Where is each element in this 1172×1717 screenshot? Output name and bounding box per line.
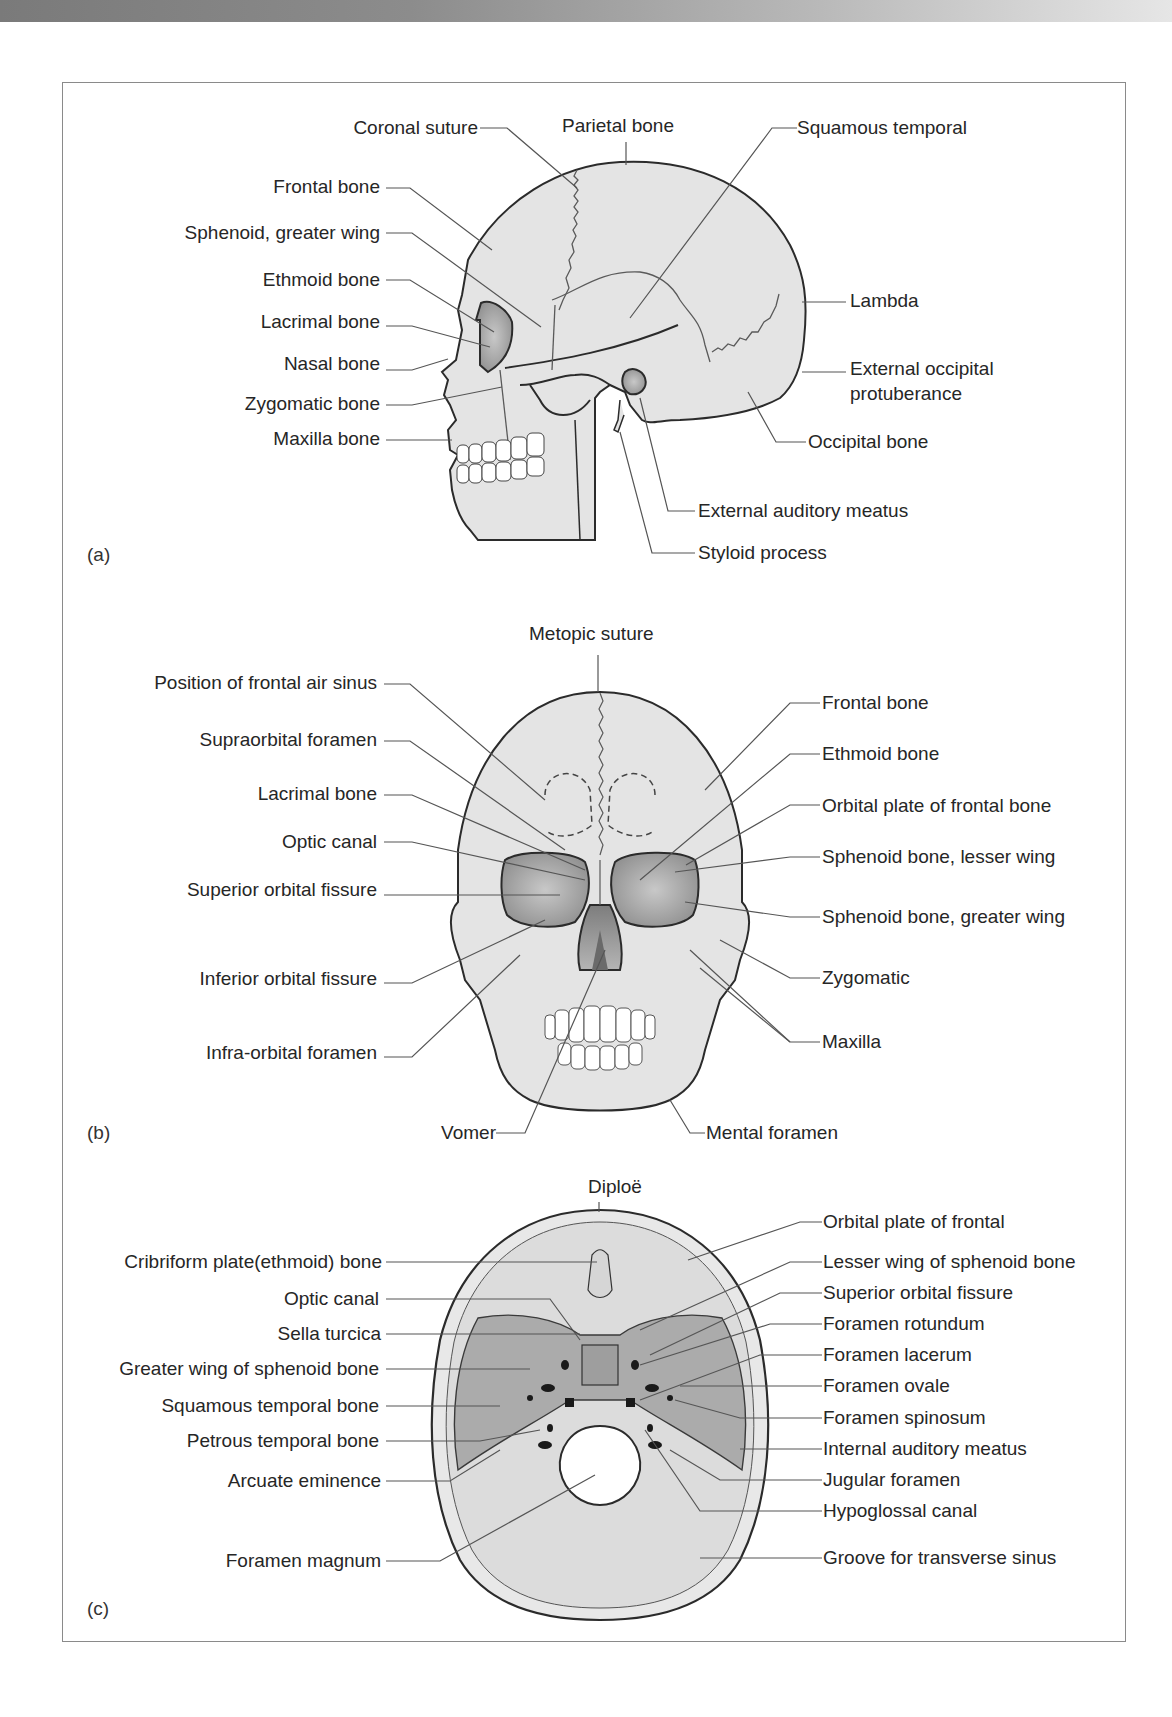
label-squamous-temporal-bone: Squamous temporal bone [161, 1395, 379, 1417]
label-sphenoid-lesser-wing: Sphenoid bone, lesser wing [822, 846, 1055, 868]
label-maxilla-b: Maxilla [822, 1031, 881, 1053]
label-optic-canal-c: Optic canal [284, 1288, 379, 1310]
label-sphenoid-greater-wing-b: Sphenoid bone, greater wing [822, 906, 1065, 928]
label-foramen-lacerum: Foramen lacerum [823, 1344, 972, 1366]
label-hypoglossal-canal: Hypoglossal canal [823, 1500, 977, 1522]
label-frontal-air-sinus: Position of frontal air sinus [154, 672, 377, 694]
label-diploe: Diploë [588, 1176, 642, 1198]
label-external-occipital: External occipital [850, 358, 994, 380]
label-orbital-plate-frontal: Orbital plate of frontal [823, 1211, 1005, 1233]
label-nasal-bone: Nasal bone [284, 353, 380, 375]
panel-label-c: (c) [87, 1598, 109, 1620]
label-squamous-temporal: Squamous temporal [797, 117, 967, 139]
label-foramen-rotundum: Foramen rotundum [823, 1313, 985, 1335]
label-supraorbital-foramen: Supraorbital foramen [200, 729, 377, 751]
label-protuberance: protuberance [850, 383, 962, 405]
label-coronal-suture: Coronal suture [353, 117, 478, 139]
label-maxilla-bone: Maxilla bone [273, 428, 380, 450]
label-lesser-wing-sphenoid: Lesser wing of sphenoid bone [823, 1251, 1075, 1273]
label-groove-transverse-sinus: Groove for transverse sinus [823, 1547, 1056, 1569]
label-internal-auditory-meatus: Internal auditory meatus [823, 1438, 1027, 1460]
label-lacrimal-bone: Lacrimal bone [261, 311, 380, 333]
panel-label-b: (b) [87, 1122, 110, 1144]
label-foramen-magnum: Foramen magnum [226, 1550, 381, 1572]
label-parietal-bone: Parietal bone [562, 115, 674, 137]
label-occipital-bone: Occipital bone [808, 431, 928, 453]
label-sella-turcica: Sella turcica [278, 1323, 382, 1345]
label-optic-canal-b: Optic canal [282, 831, 377, 853]
label-zygomatic-bone: Zygomatic bone [245, 393, 380, 415]
label-zygomatic-b: Zygomatic [822, 967, 910, 989]
label-cribriform-plate: Cribriform plate(ethmoid) bone [124, 1251, 382, 1273]
label-sphenoid-greater-wing: Sphenoid, greater wing [185, 222, 380, 244]
label-superior-orbital-fissure-c: Superior orbital fissure [823, 1282, 1013, 1304]
label-superior-orbital-fissure-b: Superior orbital fissure [187, 879, 377, 901]
label-orbital-plate-frontal-bone: Orbital plate of frontal bone [822, 795, 1051, 817]
label-jugular-foramen: Jugular foramen [823, 1469, 960, 1491]
label-ethmoid-bone: Ethmoid bone [263, 269, 380, 291]
label-petrous-temporal-bone: Petrous temporal bone [187, 1430, 379, 1452]
label-styloid-process: Styloid process [698, 542, 827, 564]
label-arcuate-eminence: Arcuate eminence [228, 1470, 381, 1492]
label-infra-orbital-foramen: Infra-orbital foramen [206, 1042, 377, 1064]
label-foramen-spinosum: Foramen spinosum [823, 1407, 986, 1429]
label-mental-foramen: Mental foramen [706, 1122, 838, 1144]
panel-label-a: (a) [87, 544, 110, 566]
label-lambda: Lambda [850, 290, 919, 312]
label-foramen-ovale: Foramen ovale [823, 1375, 950, 1397]
label-vomer: Vomer [441, 1122, 496, 1144]
lateral-skull [442, 162, 806, 540]
label-inferior-orbital-fissure: Inferior orbital fissure [200, 968, 377, 990]
label-frontal-bone: Frontal bone [273, 176, 380, 198]
anterior-teeth [545, 1006, 655, 1070]
label-external-auditory-meatus: External auditory meatus [698, 500, 908, 522]
label-frontal-bone-b: Frontal bone [822, 692, 929, 714]
label-metopic-suture: Metopic suture [529, 623, 654, 645]
label-lacrimal-bone-b: Lacrimal bone [258, 783, 377, 805]
label-ethmoid-bone-b: Ethmoid bone [822, 743, 939, 765]
label-greater-wing-sphenoid: Greater wing of sphenoid bone [119, 1358, 379, 1380]
